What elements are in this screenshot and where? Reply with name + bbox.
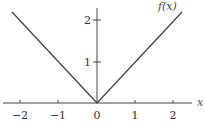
y-tick-label: 2	[84, 14, 91, 27]
x-tick-label: 2	[170, 109, 177, 122]
x-tick-label: 1	[132, 109, 139, 122]
y-tick-label: 1	[84, 56, 91, 69]
curve-label: f(x)	[157, 0, 177, 13]
plot-area: −2 −1 0 1 2 1 2 x f(x)	[0, 0, 205, 125]
x-tick-label: −1	[50, 109, 66, 122]
x-tick-label: 0	[94, 109, 101, 122]
x-axis-label: x	[197, 96, 204, 109]
x-tick-label: −2	[12, 109, 28, 122]
